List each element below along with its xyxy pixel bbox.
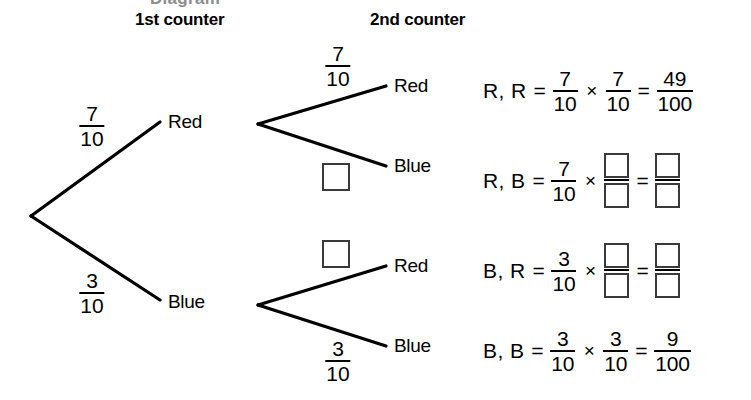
equation-row-rb: R, B = 7 10 × = [483,153,680,208]
equation-row-bb: B, B = 3 10 × 3 10 = 9 100 [483,328,691,374]
factor2-numerator-input[interactable] [604,243,629,268]
fraction-numerator: 49 [662,68,687,90]
fraction-denominator: 10 [79,125,104,149]
equals-sign: = [525,169,551,193]
result-denominator-wrap [655,179,680,208]
factor1-fraction: 3 10 [550,328,575,374]
result-denominator-input[interactable] [655,273,680,298]
outcome-label: R, R [483,79,527,103]
fraction-numerator: 7 [331,43,345,65]
probability-red-red: 7 10 [325,43,350,89]
fraction-numerator: 7 [611,68,624,90]
result-numerator-input[interactable] [655,243,680,268]
fraction-denominator: 10 [551,270,576,294]
fraction-numerator: 3 [609,328,622,350]
fraction-numerator: 3 [556,328,569,350]
multiply-sign: × [576,170,604,192]
factor2-fraction: 7 10 [606,68,631,114]
equals-sign: = [629,169,655,193]
node-level1-red: Red [168,111,202,133]
factor2-fraction: 3 10 [603,328,628,374]
fraction-numerator: 7 [558,68,571,90]
factor2-denominator-input[interactable] [604,273,629,298]
outcome-label: R, B [483,169,525,193]
fraction-denominator: 100 [654,350,690,374]
branch-red-blue [258,124,386,166]
node-level2-blue-red: Red [394,255,428,277]
fraction-numerator: 3 [331,338,345,360]
multiply-sign: × [576,260,604,282]
multiply-sign: × [578,80,606,102]
node-level2-blue-blue: Blue [394,335,431,357]
node-level2-red-red: Red [394,75,428,97]
fraction-denominator: 100 [657,90,693,114]
fraction-denominator: 10 [550,350,575,374]
factor2-denominator-wrap [604,269,629,298]
fraction-denominator: 10 [325,360,350,384]
result-numerator-input[interactable] [655,153,680,178]
branch-blue-red [258,266,386,305]
fraction-denominator: 10 [551,180,576,204]
multiply-sign: × [575,340,603,362]
factor1-fraction: 3 10 [551,248,576,294]
factor2-fraction-blank [604,153,629,208]
equals-sign: = [629,259,655,283]
probability-blue-red-input[interactable] [322,240,350,268]
factor2-denominator-wrap [604,179,629,208]
factor2-fraction-blank [604,243,629,298]
equation-row-rr: R, R = 7 10 × 7 10 = 49 100 [483,68,693,114]
factor2-denominator-input[interactable] [604,183,629,208]
probability-tree-diagram: Diagram 1st counter 2nd counter 7 10 3 1… [0,0,751,400]
node-level2-red-blue: Blue [394,155,431,177]
fraction-denominator: 10 [79,292,104,316]
probability-red-blue-input[interactable] [322,163,350,191]
result-fraction: 49 100 [657,68,693,114]
node-level1-blue: Blue [168,291,205,313]
result-denominator-input[interactable] [655,183,680,208]
fraction-numerator: 3 [85,270,99,292]
factor1-fraction: 7 10 [553,68,578,114]
equals-sign: = [525,259,551,283]
fraction-denominator: 10 [553,90,578,114]
branch-red-red [258,86,386,124]
probability-root-blue: 3 10 [79,270,104,316]
probability-root-red: 7 10 [79,103,104,149]
factor1-fraction: 7 10 [551,158,576,204]
result-fraction-blank [655,243,680,298]
probability-blue-blue: 3 10 [325,338,350,384]
fraction-denominator: 10 [603,350,628,374]
factor2-numerator-input[interactable] [604,153,629,178]
result-fraction-blank [655,153,680,208]
equals-sign: = [524,339,550,363]
branch-blue-blue [258,305,386,346]
result-denominator-wrap [655,269,680,298]
equals-sign: = [631,79,657,103]
equation-row-br: B, R = 3 10 × = [483,243,680,298]
outcome-label: B, R [483,259,525,283]
equals-sign: = [628,339,654,363]
fraction-denominator: 10 [325,65,350,89]
fraction-denominator: 10 [606,90,631,114]
fraction-numerator: 3 [557,248,570,270]
fraction-numerator: 7 [85,103,99,125]
fraction-numerator: 9 [666,328,679,350]
equals-sign: = [527,79,553,103]
fraction-numerator: 7 [557,158,570,180]
outcome-label: B, B [483,339,524,363]
result-fraction: 9 100 [654,328,690,374]
